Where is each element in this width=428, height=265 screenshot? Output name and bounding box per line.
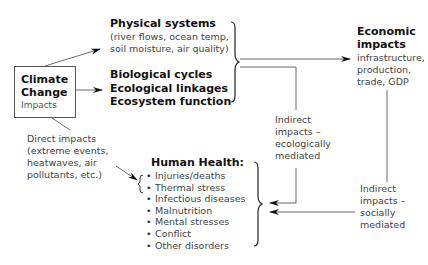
list-item: Mental stresses xyxy=(146,216,245,228)
economic-detail-3: trade, GDP xyxy=(357,76,409,88)
brace-upper xyxy=(231,22,239,102)
ecological-linkages: Ecological linkages xyxy=(110,83,228,95)
indirect-social-1: Indirect xyxy=(360,183,396,195)
indirect-social-4: mediated xyxy=(360,219,405,231)
physical-systems-detail-1: (river flows, ocean temp, xyxy=(110,31,229,43)
brace-health xyxy=(254,162,262,246)
line-ecological xyxy=(240,67,296,110)
economic-title-2: impacts xyxy=(357,39,406,51)
physical-systems-title: Physical systems xyxy=(110,18,216,30)
biological-cycles: Biological cycles xyxy=(110,69,212,81)
human-health-list: Injuries/deaths Thermal stress Infectiou… xyxy=(146,170,245,251)
economic-detail-2: production, xyxy=(357,64,411,76)
climate-change-title-2: Change xyxy=(21,86,68,99)
list-item: Malnutrition xyxy=(146,205,245,217)
climate-change-title-1: Climate xyxy=(21,73,68,86)
indirect-social-2: impacts – xyxy=(360,195,405,207)
economic-title-1: Economic xyxy=(357,26,416,38)
line-to-direct xyxy=(49,116,70,130)
arrow-ecological-to-health xyxy=(270,168,296,203)
arrow-to-physical xyxy=(45,49,100,66)
brace-small xyxy=(138,175,143,193)
list-item: Injuries/deaths xyxy=(146,170,245,182)
direct-impacts-4: pollutants, etc.) xyxy=(27,169,102,181)
climate-change-box: Climate Change Impacts xyxy=(14,66,76,118)
indirect-ecological-1: Indirect xyxy=(275,114,311,126)
indirect-ecological-4: mediated xyxy=(275,150,320,162)
human-health-title: Human Health: xyxy=(151,157,244,169)
direct-impacts-1: Direct impacts xyxy=(27,133,96,145)
direct-impacts-2: (extreme events, xyxy=(27,145,108,157)
indirect-ecological-2: impacts – xyxy=(275,126,320,138)
indirect-ecological-3: ecologically xyxy=(275,138,331,150)
physical-systems-detail-2: soil moisture, air quality) xyxy=(110,43,229,55)
direct-impacts-3: heatwaves, air xyxy=(27,157,97,169)
climate-change-subtitle: Impacts xyxy=(21,99,68,112)
economic-detail-1: infrastructure, xyxy=(357,52,425,64)
list-item: Infectious diseases xyxy=(146,193,245,205)
list-item: Thermal stress xyxy=(146,182,245,194)
list-item: Other disorders xyxy=(146,240,245,252)
arrow-to-health xyxy=(116,166,137,180)
list-item: Conflict xyxy=(146,228,245,240)
ecosystem-function: Ecosystem function xyxy=(110,96,231,108)
indirect-social-3: socially xyxy=(360,207,395,219)
